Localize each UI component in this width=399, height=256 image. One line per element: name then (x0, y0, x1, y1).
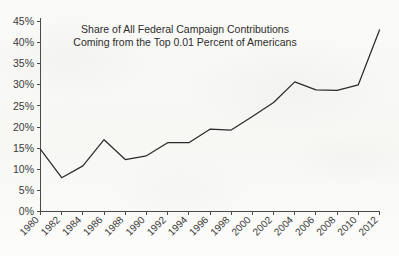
y-tick-label: 10% (13, 163, 34, 175)
x-tick-label: 1988 (102, 214, 126, 238)
y-tick-label: 25% (13, 100, 34, 112)
y-tick-label: 15% (13, 142, 34, 154)
line-chart: 0%5%10%15%20%25%30%35%40%45%198019821984… (0, 0, 399, 256)
x-tick-label: 1990 (123, 214, 147, 238)
x-tick-label: 1980 (17, 214, 41, 238)
y-tick-label: 45% (13, 15, 34, 27)
x-tick-label: 1992 (145, 214, 169, 238)
chart-figure: 0%5%10%15%20%25%30%35%40%45%198019821984… (0, 0, 399, 256)
x-tick-label: 2012 (356, 214, 380, 238)
x-tick-label: 1982 (39, 214, 63, 238)
y-tick-label: 20% (13, 121, 34, 133)
x-tick-label: 1996 (187, 214, 211, 238)
x-tick-label: 2006 (293, 214, 317, 238)
x-tick-label: 2000 (229, 214, 253, 238)
data-series-line (41, 30, 380, 178)
y-tick-label: 35% (13, 57, 34, 69)
x-tick-label: 2004 (272, 214, 296, 238)
x-tick-label: 1984 (60, 214, 84, 238)
y-tick-label: 40% (13, 36, 34, 48)
x-tick-label: 1998 (208, 214, 232, 238)
x-tick-label: 1986 (81, 214, 105, 238)
x-tick-label: 1994 (166, 214, 190, 238)
chart-title-line: Coming from the Top 0.01 Percent of Amer… (73, 36, 296, 48)
x-tick-label: 2008 (314, 214, 338, 238)
y-tick-label: 30% (13, 78, 34, 90)
chart-title-line: Share of All Federal Campaign Contributi… (81, 23, 289, 35)
y-tick-label: 5% (19, 184, 34, 196)
x-tick-label: 2010 (335, 214, 359, 238)
x-tick-label: 2002 (250, 214, 274, 238)
